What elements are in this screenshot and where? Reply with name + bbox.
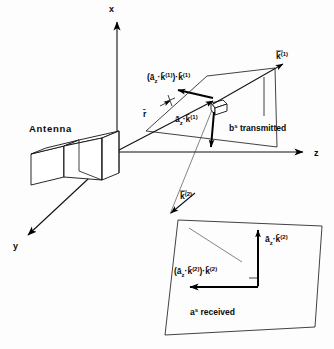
svg-text:k̄(2): k̄(2) [180,191,192,201]
antenna-horn [31,131,119,185]
right-angle-tick-upper [160,95,175,106]
x-axis-label: x [109,4,114,14]
k2-leader-line [189,228,242,262]
svg-text:as received: as received [190,307,235,317]
az-dot-k1-label: āz·k̄(1) [175,114,198,126]
svg-text:(āz·k̄(2))·k̄(2): (āz·k̄(2))·k̄(2) [174,266,217,278]
projection2-label: (āz·k̄(2))·k̄(2) [174,266,217,278]
projection1-arrow [178,90,213,98]
k2-vector-label: k̄(2) [180,191,192,201]
antenna-label: Antenna [29,123,72,134]
projection1-label: (āz·k̄(1))·k̄(1) [147,72,190,84]
az-dot-k1-arrow [211,112,214,147]
scattering-geometry-diagram: x z y O Antenna r̄ [0,0,334,349]
svg-text:āz·k̄(1): āz·k̄(1) [175,114,198,126]
a-received-label: as received [190,307,235,317]
svg-text:bs transmitted: bs transmitted [229,123,286,133]
k1-vector-arrow [213,64,283,104]
received-plane [165,220,322,335]
az-dot-k2-label: āz·k̄(2) [265,234,288,246]
right-angle-marker-lower [249,278,258,287]
svg-text:(āz·k̄(1))·k̄(1): (āz·k̄(1))·k̄(1) [147,72,190,84]
y-axis-label: y [13,241,18,251]
svg-text:k̄(1): k̄(1) [276,51,288,61]
r-vector-label: r̄ [142,109,147,119]
k1-vector-label: k̄(1) [276,51,288,61]
b-transmitted-label: bs transmitted [229,123,286,133]
svg-text:āz·k̄(2): āz·k̄(2) [265,234,288,246]
z-axis-label: z [314,148,319,158]
figure-container: x z y O Antenna r̄ [0,0,334,349]
k2-path-line [170,110,212,214]
